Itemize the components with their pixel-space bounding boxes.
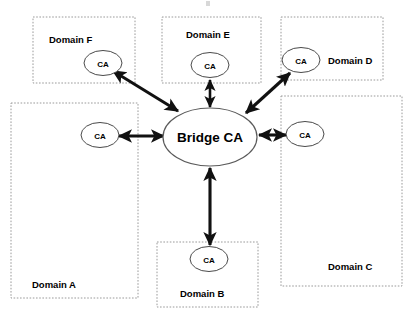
domain-c-ca-node[interactable]: CA [286,122,324,147]
domain-b-ca-label: CA [203,256,215,265]
domain-label-c: Domain C [328,261,372,272]
domain-label-d: Domain D [328,55,372,66]
domain-b-ca-node[interactable]: CA [190,247,228,272]
domain-a-ca-node[interactable]: CA [81,123,119,148]
domain-label-b: Domain B [180,288,224,299]
connector-bridge-domain-f [113,71,178,111]
domain-label-e: Domain E [186,29,230,40]
domain-d-ca-node[interactable]: CA [282,48,320,73]
domain-c-ca-label: CA [299,131,311,140]
domain-d-ca-label: CA [295,57,307,66]
domain-label-a: Domain A [32,279,76,290]
bridge-ca-diagram: Bridge CA CA CA CA CA CA [0,0,413,318]
domain-f-ca-label: CA [97,60,109,69]
domain-box-f [33,17,135,83]
diagram-canvas: Bridge CA CA CA CA CA CA [0,0,413,318]
connector-bridge-domain-d [246,73,290,113]
domain-f-ca-node[interactable]: CA [84,51,122,76]
bridge-ca-node[interactable]: Bridge CA [163,108,257,166]
domain-a-ca-label: CA [94,132,106,141]
domain-e-ca-node[interactable]: CA [191,53,229,78]
domain-e-ca-label: CA [204,62,216,71]
domain-label-f: Domain F [49,34,92,45]
bridge-ca-label: Bridge CA [177,130,243,145]
